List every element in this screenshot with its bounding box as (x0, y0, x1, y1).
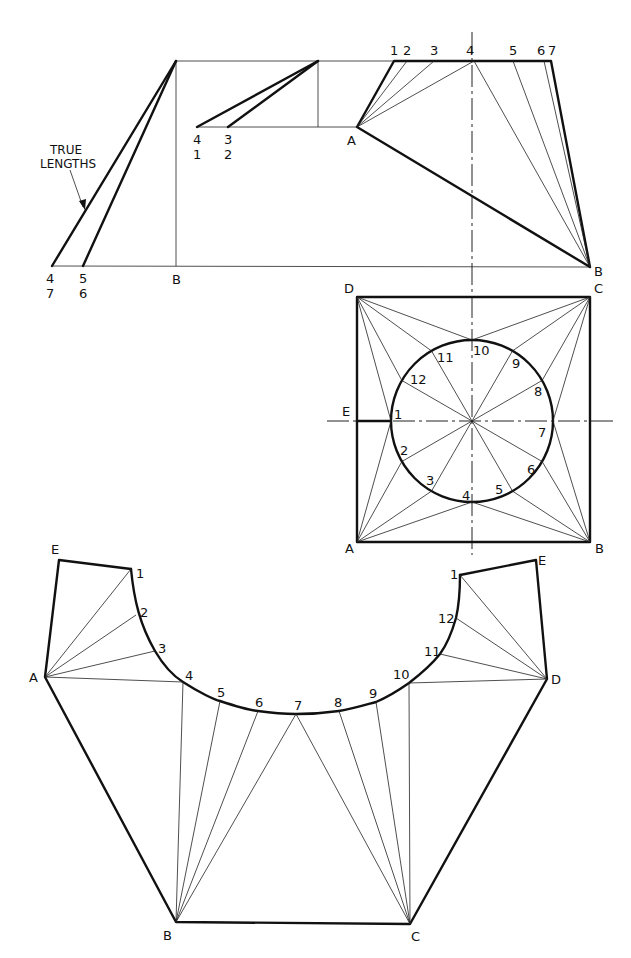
dev-point-3: 3 (158, 641, 166, 656)
top-label-2: 2 (403, 43, 411, 58)
pattern-outline (45, 560, 547, 924)
label-A-dev: A (29, 670, 38, 685)
true-length-3-2 (228, 61, 318, 127)
pattern-lines-B (176, 682, 296, 922)
elevation-outline (357, 61, 590, 267)
elev-line-B4 (474, 61, 590, 267)
arrow-icon (79, 199, 86, 210)
label-C-plan: C (594, 281, 603, 296)
dev-point-9: 9 (369, 686, 377, 701)
plan-point-6: 6 (527, 462, 535, 477)
plan-point-8: 8 (534, 384, 542, 399)
label-5: 5 (79, 271, 87, 286)
plan-point-3: 3 (426, 473, 434, 488)
dev-point-4: 4 (185, 668, 193, 683)
plan-point-4: 4 (462, 488, 470, 503)
true-length-4-1 (197, 61, 318, 127)
label-A-elevation: A (347, 133, 356, 148)
label-D-plan: D (344, 281, 354, 296)
label-4-short: 4 (193, 132, 201, 147)
plan-point-2: 2 (400, 443, 408, 458)
plan-lines-B (472, 421, 590, 542)
true-lengths-label-1: TRUE (49, 143, 82, 157)
plan-lines-C (472, 297, 590, 421)
pattern-lines-A (45, 569, 183, 682)
ground-line (52, 266, 590, 267)
label-A-plan: A (345, 541, 354, 556)
plan-point-7: 7 (538, 425, 546, 440)
elev-line-A2 (357, 61, 407, 127)
plan-point-5: 5 (495, 482, 503, 497)
plan-view: D C A B E 1 2 3 4 5 6 7 8 9 10 11 12 (327, 281, 615, 556)
pattern-lines-C (296, 683, 410, 924)
top-label-7: 7 (548, 43, 556, 58)
dev-point-5: 5 (217, 685, 225, 700)
dev-point-6: 6 (255, 695, 263, 710)
label-D-dev: D (551, 672, 561, 687)
plan-point-9: 9 (512, 356, 520, 371)
plan-point-12: 12 (410, 372, 427, 387)
top-label-5: 5 (509, 43, 517, 58)
dev-point-1-right: 1 (450, 567, 458, 582)
label-2-short: 2 (224, 147, 232, 162)
dev-point-1-left: 1 (136, 566, 144, 581)
elev-line-B5 (513, 61, 590, 267)
label-E-right: E (538, 553, 546, 568)
label-C-dev: C (411, 929, 420, 944)
label-6: 6 (79, 286, 87, 301)
development-pattern: E A B C D E 1 2 3 4 5 6 7 8 9 10 11 12 1 (29, 542, 561, 944)
dev-point-12: 12 (438, 611, 455, 626)
elev-line-A3 (357, 61, 434, 127)
plan-point-1: 1 (394, 407, 402, 422)
true-lengths-label-2: LENGTHS (40, 157, 96, 171)
top-label-6: 6 (537, 43, 545, 58)
label-4: 4 (46, 271, 54, 286)
plan-lines-A (357, 421, 472, 542)
label-B-right: B (594, 264, 603, 279)
drawing-canvas: TRUE LENGTHS 4 7 5 6 B 4 1 3 2 A B 1 2 3… (0, 0, 631, 958)
label-E-left: E (51, 542, 59, 557)
label-1-short: 1 (193, 147, 201, 162)
label-E-plan: E (342, 404, 350, 419)
dev-point-10: 10 (393, 667, 410, 682)
label-B-elevation: B (172, 272, 181, 287)
dev-point-2: 2 (140, 605, 148, 620)
elev-line-B6 (544, 61, 590, 267)
top-label-1: 1 (390, 43, 398, 58)
label-B-dev: B (163, 928, 172, 943)
label-3-short: 3 (224, 132, 232, 147)
label-7: 7 (46, 286, 54, 301)
dev-point-11: 11 (424, 644, 441, 659)
plan-point-11: 11 (437, 350, 454, 365)
true-length-5-6 (83, 61, 176, 266)
plan-lines-D (357, 297, 472, 421)
plan-point-10: 10 (473, 343, 490, 358)
dev-point-8: 8 (334, 695, 342, 710)
label-B-plan: B (595, 541, 604, 556)
top-label-4: 4 (466, 43, 474, 58)
top-label-3: 3 (430, 43, 438, 58)
dev-point-7: 7 (294, 698, 302, 713)
true-length-diagram: TRUE LENGTHS 4 7 5 6 B 4 1 3 2 A B 1 2 3… (40, 32, 603, 555)
pattern-arc (131, 569, 460, 714)
